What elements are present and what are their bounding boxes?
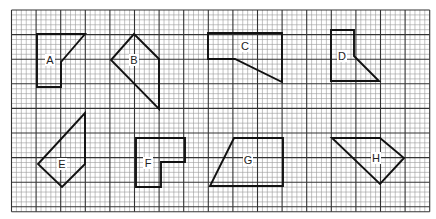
shape-label: H bbox=[372, 152, 380, 164]
shape-grid-diagram: ABCDEFGH bbox=[0, 0, 436, 219]
shape-d: D bbox=[331, 30, 379, 81]
shape-outline bbox=[38, 113, 85, 187]
shape-label: E bbox=[58, 158, 65, 170]
shape-c: C bbox=[208, 33, 282, 82]
shape-label: B bbox=[130, 54, 137, 66]
shape-f: F bbox=[136, 138, 185, 187]
grid-major-lines bbox=[12, 10, 430, 212]
shape-label: C bbox=[241, 40, 249, 52]
shape-label: F bbox=[145, 157, 152, 169]
shape-label: A bbox=[46, 54, 54, 66]
shape-e: E bbox=[38, 113, 85, 187]
shape-label: D bbox=[338, 50, 346, 62]
shape-label: G bbox=[244, 154, 253, 166]
grid-minor-lines bbox=[12, 10, 430, 212]
